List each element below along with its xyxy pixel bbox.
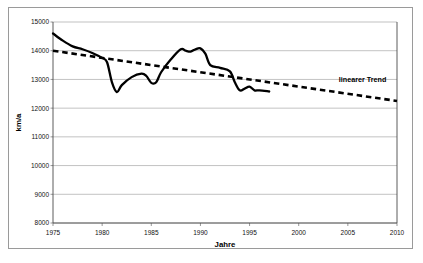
x-axis-tick-labels: 19751980198519901995200020052010 (46, 229, 405, 236)
x-tick-label: 1980 (95, 229, 110, 236)
y-tick-label: 9000 (35, 191, 50, 198)
data-series-line (53, 33, 269, 92)
x-tick-label: 1995 (242, 229, 257, 236)
y-tick-label: 8000 (35, 219, 50, 226)
x-tick-label: 2010 (390, 229, 405, 236)
x-tick-label: 2005 (341, 229, 356, 236)
y-tick-label: 13000 (31, 76, 49, 83)
chart-frame: 80009000100001100012000130001400015000 1… (8, 7, 413, 249)
gridline-group (53, 22, 397, 223)
line-chart: 80009000100001100012000130001400015000 1… (9, 8, 412, 248)
y-tick-label: 11000 (31, 133, 49, 140)
y-tick-label: 14000 (31, 47, 49, 54)
trend-series-label: linearer Trend (339, 75, 387, 84)
x-tick-label: 2000 (291, 229, 306, 236)
x-tick-label: 1975 (46, 229, 61, 236)
y-tick-label: 10000 (31, 162, 49, 169)
y-tick-label: 12000 (31, 105, 49, 112)
y-axis-tick-labels: 80009000100001100012000130001400015000 (31, 18, 53, 226)
x-axis-title: Jahre (215, 240, 236, 248)
y-tick-label: 15000 (31, 18, 49, 25)
x-tick-label: 1990 (193, 229, 208, 236)
x-tick-label: 1985 (144, 229, 159, 236)
y-axis-title: km/a (14, 113, 23, 131)
